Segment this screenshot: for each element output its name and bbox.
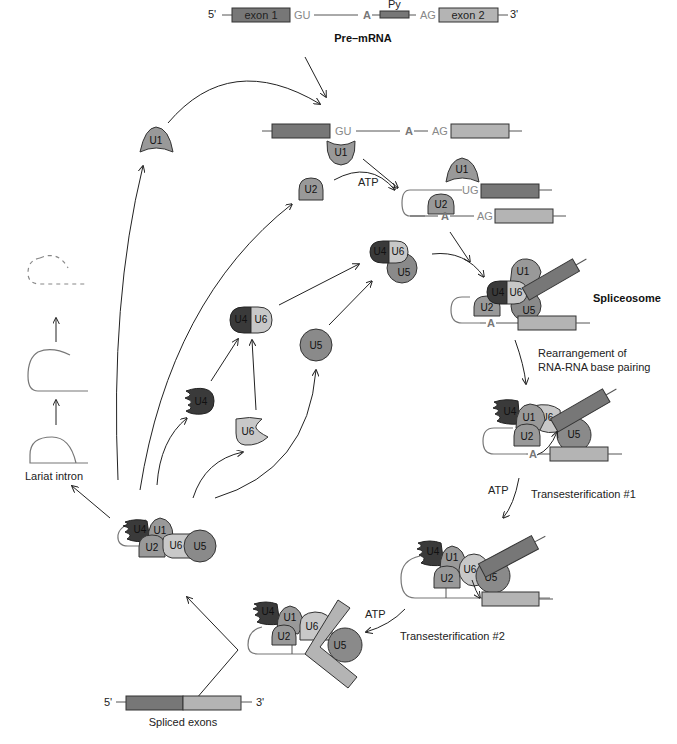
ag-label: AG: [432, 125, 448, 137]
svg-text:U5: U5: [568, 429, 581, 440]
pre-mrna: 5' exon 1 GU A Py AG exon 2 3' Pre–mRNA: [208, 0, 518, 44]
svg-text:U1: U1: [523, 412, 536, 423]
svg-text:U6: U6: [170, 540, 183, 551]
u4-u6-di-snrnp: U4 U6: [230, 307, 272, 333]
exon-1: [481, 184, 539, 198]
svg-text:U2: U2: [521, 431, 534, 442]
debranched-intron: [28, 350, 88, 391]
rearrangement-label-line1: Rearrangement of: [538, 347, 628, 359]
svg-text:U1: U1: [335, 147, 348, 158]
degraded-intron: [28, 258, 86, 284]
atp-label-3: ATP: [365, 608, 386, 620]
exon-2: [451, 124, 509, 138]
ug-label: UG: [462, 184, 479, 196]
exon-2: [482, 592, 539, 606]
svg-text:U4: U4: [195, 396, 208, 407]
svg-text:U6: U6: [464, 564, 477, 575]
svg-text:U5: U5: [398, 267, 411, 278]
svg-text:U6: U6: [392, 246, 405, 257]
branch-a-label: A: [441, 210, 449, 222]
five-prime-label: 5': [208, 8, 216, 20]
polypyrimidine-tract: [380, 11, 409, 18]
svg-text:U4: U4: [262, 606, 275, 617]
svg-text:U5: U5: [310, 340, 323, 351]
svg-text:U1: U1: [456, 164, 469, 175]
u4-u6-u5-tri-snrnp: U5 U4 U6: [370, 241, 417, 283]
exon-2: [518, 316, 576, 330]
exon-2: [183, 696, 241, 710]
free-u5: U5: [300, 329, 332, 361]
svg-text:U2: U2: [435, 199, 448, 210]
rearrangement-label-line2: RNA-RNA base pairing: [538, 361, 651, 373]
svg-text:U4: U4: [504, 406, 517, 417]
spliceosome-label: Spliceosome: [593, 292, 661, 304]
post-splicing-complex: U4 U1 U6 U2 U5: [248, 600, 362, 688]
svg-text:U4: U4: [427, 546, 440, 557]
exon-2: [550, 447, 608, 461]
exon-2-label: exon 2: [451, 9, 484, 21]
free-u1: U1: [140, 127, 173, 152]
exon-1: [272, 124, 330, 138]
free-u2: U2: [299, 178, 323, 200]
branch-a-label: A: [529, 448, 537, 460]
svg-text:U4: U4: [492, 287, 505, 298]
branch-a-label: A: [487, 317, 495, 329]
u1-u2-complex: UG U1 U2 A AG: [402, 158, 566, 223]
transesterification-2-label: Transesterification #2: [400, 630, 505, 642]
svg-text:U2: U2: [278, 631, 291, 642]
py-label: Py: [388, 0, 401, 10]
svg-text:U2: U2: [305, 184, 318, 195]
exon-2: [495, 209, 553, 223]
three-prime-label: 3': [510, 8, 518, 20]
svg-text:U1: U1: [150, 135, 163, 146]
svg-text:U1: U1: [154, 525, 167, 536]
svg-text:U1: U1: [446, 552, 459, 563]
ag-label: AG: [420, 9, 436, 21]
svg-text:U5: U5: [194, 541, 207, 552]
first-step-complex: U4 U1 U2 U6 U5: [401, 530, 553, 606]
lariat-intron-stack: Lariat intron: [25, 256, 88, 482]
exon-1: [126, 696, 183, 710]
svg-text:U6: U6: [510, 287, 523, 298]
spliced-exons: 5' 3' Spliced exons: [104, 696, 264, 728]
branch-a-label: A: [405, 125, 413, 137]
activated-spliceosome: U4 U6 U1 U2 U5 A: [483, 383, 622, 461]
gu-label: GU: [294, 9, 311, 21]
svg-text:U4: U4: [134, 524, 147, 535]
free-u4: U4: [185, 388, 214, 414]
ag-label: AG: [477, 210, 493, 222]
transesterification-1-label: Transesterification #1: [531, 488, 636, 500]
three-prime-label: 3': [256, 696, 264, 708]
atp-label-2: ATP: [488, 484, 509, 496]
gu-label: GU: [335, 125, 352, 137]
svg-text:U1: U1: [517, 266, 530, 277]
svg-text:U4: U4: [374, 246, 387, 257]
svg-text:U5: U5: [523, 305, 536, 316]
atp-label-1: ATP: [358, 176, 379, 188]
svg-text:U5: U5: [334, 640, 347, 651]
spliced-exons-label: Spliced exons: [149, 716, 218, 728]
u1-bound-complex: GU A AG U1: [262, 124, 522, 165]
lariat-intron-label: Lariat intron: [25, 470, 83, 482]
svg-text:U4: U4: [235, 314, 248, 325]
lariat-intron: [30, 437, 88, 463]
pre-mrna-caption: Pre–mRNA: [334, 32, 392, 44]
exon-1-label: exon 1: [244, 9, 277, 21]
svg-text:U2: U2: [481, 302, 494, 313]
svg-text:U1: U1: [284, 612, 297, 623]
svg-text:U6: U6: [255, 314, 268, 325]
svg-text:U6: U6: [306, 621, 319, 632]
free-snrnp-complex: U4 U1 U2 U6 U5: [118, 518, 216, 562]
branch-a-label: A: [363, 9, 371, 21]
five-prime-label: 5': [104, 696, 112, 708]
free-u6: U6: [236, 418, 268, 446]
splicing-diagram: 5' exon 1 GU A Py AG exon 2 3' Pre–mRNA …: [0, 0, 677, 744]
svg-text:U6: U6: [242, 426, 255, 437]
svg-text:U2: U2: [441, 573, 454, 584]
svg-text:U2: U2: [146, 542, 159, 553]
